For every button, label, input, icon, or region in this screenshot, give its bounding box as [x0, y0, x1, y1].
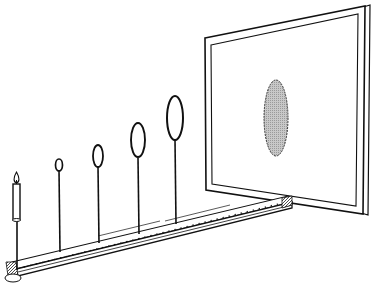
candle-icon: [13, 172, 21, 270]
projection-screen: [205, 5, 370, 215]
aperture-1: [56, 159, 63, 252]
aperture-2: [93, 145, 103, 243]
illuminated-spot: [264, 80, 288, 156]
aperture-4: [167, 96, 183, 224]
diagram-canvas: Inverse square law demonstration: candle…: [0, 0, 378, 289]
aperture-3: [131, 123, 145, 234]
optical-bench: [5, 196, 292, 282]
